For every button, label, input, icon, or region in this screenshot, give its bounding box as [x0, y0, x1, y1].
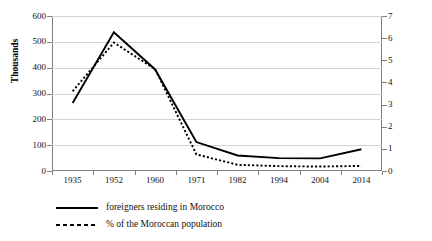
- series-line-foreigners: [73, 32, 362, 158]
- right-axis-tick-label: 5: [388, 56, 406, 65]
- right-axis-tick-mark: [382, 60, 387, 61]
- x-axis-tick-mark: [52, 171, 53, 175]
- x-axis-tick-mark: [300, 171, 301, 175]
- left-axis-tick-label: 300: [20, 89, 46, 98]
- left-axis-tick-label: 500: [20, 37, 46, 46]
- x-axis-tick-mark: [258, 171, 259, 175]
- right-axis-tick-mark: [382, 149, 387, 150]
- left-axis-tick-label: 0: [20, 167, 46, 176]
- x-axis-tick-mark: [341, 171, 342, 175]
- right-axis-tick-label: 6: [388, 34, 406, 43]
- left-axis-tick-label: 200: [20, 115, 46, 124]
- right-axis-tick-mark: [382, 16, 387, 17]
- x-axis-tick-mark: [382, 171, 383, 175]
- legend-item-percentage: % of the Moroccan population: [52, 216, 382, 233]
- right-axis-tick-label: 4: [388, 78, 406, 87]
- x-axis-tick-label: 1971: [174, 175, 218, 185]
- right-axis-tick-label: 0: [388, 167, 406, 176]
- x-axis-tick-label: 1935: [51, 175, 95, 185]
- right-axis-tick-label: 1: [388, 144, 406, 153]
- legend-label-foreigners: foreigners residing in Morocco: [106, 202, 224, 213]
- right-axis-tick-label: 2: [388, 122, 406, 131]
- x-axis-tick-label: 1952: [92, 175, 136, 185]
- right-axis-tick-label: 3: [388, 100, 406, 109]
- x-axis-tick-mark: [176, 171, 177, 175]
- legend-label-percentage: % of the Moroccan population: [106, 219, 222, 230]
- x-axis-tick-label: 1994: [257, 175, 301, 185]
- x-axis-tick-label: 1960: [133, 175, 177, 185]
- x-axis-tick-mark: [93, 171, 94, 175]
- legend-swatch-dotted-icon: [52, 220, 100, 230]
- x-axis-tick-label: 2014: [339, 175, 383, 185]
- y-axis-title-label: Thousands: [10, 39, 20, 83]
- left-axis-tick-label: 400: [20, 63, 46, 72]
- legend-item-foreigners: foreigners residing in Morocco: [52, 199, 382, 216]
- left-axis-tick-label: 600: [20, 12, 46, 21]
- x-axis-tick-mark: [217, 171, 218, 175]
- right-axis-tick-mark: [382, 127, 387, 128]
- x-axis-tick-mark: [135, 171, 136, 175]
- chart-container: Thousands 6005004003002001000 76543210 1…: [0, 0, 432, 241]
- x-axis-tick-label: 2004: [298, 175, 342, 185]
- series-lines: [52, 16, 382, 171]
- right-axis-tick-label: 7: [388, 12, 406, 21]
- legend-swatch-solid-icon: [52, 203, 100, 213]
- left-axis-tick-label: 100: [20, 141, 46, 150]
- x-axis-tick-label: 1982: [216, 175, 260, 185]
- right-axis-tick-mark: [382, 105, 387, 106]
- right-axis-tick-mark: [382, 38, 387, 39]
- chart-legend: foreigners residing in Morocco % of the …: [52, 199, 382, 233]
- right-axis-tick-mark: [382, 82, 387, 83]
